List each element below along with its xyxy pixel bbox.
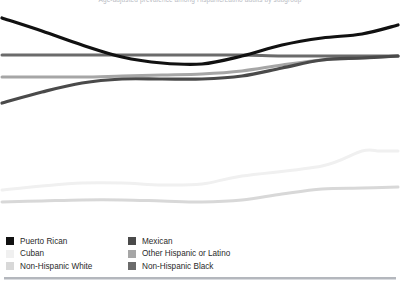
legend-swatch-non-hispanic-white: [6, 262, 14, 270]
legend-swatch-non-hispanic-black: [128, 262, 136, 270]
legend-label-non-hispanic-white: Non-Hispanic White: [20, 262, 92, 271]
series-line-non-hispanic-white: [2, 187, 398, 202]
legend-item-non-hispanic-black[interactable]: Non-Hispanic Black: [128, 260, 230, 273]
series-line-cuban: [2, 150, 398, 190]
legend-swatch-puerto-rican: [6, 237, 14, 245]
legend-item-non-hispanic-white[interactable]: Non-Hispanic White: [6, 260, 92, 273]
legend-label-non-hispanic-black: Non-Hispanic Black: [142, 262, 213, 271]
legend-swatch-mexican: [128, 237, 136, 245]
legend-column-2: Mexican Other Hispanic or Latino Non-His…: [128, 235, 230, 273]
chart-page: Age-adjusted prevalence among Hispanic/L…: [0, 0, 400, 285]
legend-label-cuban: Cuban: [20, 249, 44, 258]
chart-legend: Puerto Rican Cuban Non-Hispanic White Me…: [6, 235, 306, 273]
legend-item-puerto-rican[interactable]: Puerto Rican: [6, 235, 92, 248]
legend-label-other-hispanic-or-latino: Other Hispanic or Latino: [142, 249, 230, 258]
legend-label-mexican: Mexican: [142, 237, 173, 246]
legend-swatch-cuban: [6, 250, 14, 258]
legend-item-mexican[interactable]: Mexican: [128, 235, 230, 248]
legend-item-cuban[interactable]: Cuban: [6, 248, 92, 261]
legend-label-puerto-rican: Puerto Rican: [20, 237, 67, 246]
legend-column-1: Puerto Rican Cuban Non-Hispanic White: [6, 235, 92, 273]
line-chart-plot-area: [0, 4, 400, 228]
series-layer: [2, 18, 398, 202]
footer-divider-shadow: [4, 279, 396, 280]
series-line-non-hispanic-black: [2, 55, 398, 56]
legend-item-other-hispanic-or-latino[interactable]: Other Hispanic or Latino: [128, 248, 230, 261]
line-chart-svg: [0, 4, 400, 228]
legend-swatch-other-hispanic-or-latino: [128, 250, 136, 258]
